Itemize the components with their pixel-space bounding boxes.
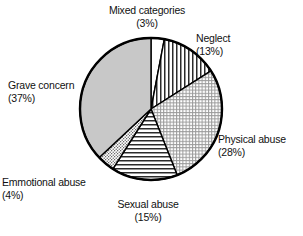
pie-label-emmotional-abuse-name: Emmotional abuse <box>2 176 118 189</box>
pie-label-mixed-categories-percent: (3%) <box>88 17 206 30</box>
pie-label-grave-concern-percent: (37%) <box>8 92 92 105</box>
pie-label-mixed-categories-name: Mixed categories <box>88 4 206 17</box>
pie-label-sexual-abuse-percent: (15%) <box>96 211 200 224</box>
pie-label-neglect-name: Neglect <box>196 32 270 45</box>
pie-chart: Mixed categories (3%) Neglect (13%) Phys… <box>0 0 303 236</box>
pie-label-physical-abuse: Physical abuse (28%) <box>218 133 303 158</box>
pie-label-grave-concern: Grave concern (37%) <box>8 79 92 104</box>
pie-label-mixed-categories: Mixed categories (3%) <box>88 4 206 29</box>
pie-label-grave-concern-name: Grave concern <box>8 79 92 92</box>
pie-label-physical-abuse-percent: (28%) <box>218 146 303 159</box>
pie-label-emmotional-abuse-percent: (4%) <box>2 189 118 202</box>
pie-label-neglect: Neglect (13%) <box>196 32 270 57</box>
pie-label-neglect-percent: (13%) <box>196 45 270 58</box>
pie-label-sexual-abuse: Sexual abuse (15%) <box>96 198 200 223</box>
pie-label-emmotional-abuse: Emmotional abuse (4%) <box>2 176 118 201</box>
pie-label-physical-abuse-name: Physical abuse <box>218 133 303 146</box>
